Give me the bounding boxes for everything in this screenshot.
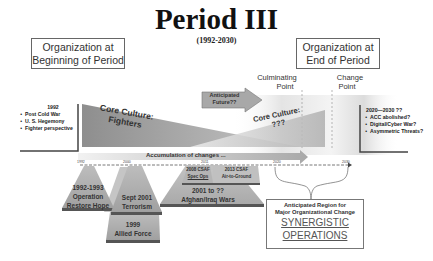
event-line: Terrorism (112, 202, 162, 211)
left-bullet: Fighter perspective (25, 125, 79, 132)
event-sept-2001: Sept 2001 Terrorism (112, 193, 162, 211)
event-line: Allied Force (107, 229, 159, 238)
left-context-year: 1992 (17, 104, 79, 111)
right-context: 2020—2030 ?? ACC abolished? Digital/Cybe… (362, 107, 432, 135)
event-afghan-iraq: 2001 to ?? Afghan/Iraq Wars (168, 186, 248, 204)
anticipated-region-line2: Major Organizational Change (267, 209, 363, 216)
tick-1992: 1992 (77, 160, 85, 164)
event-allied-force: 1999 Allied Force (107, 220, 159, 238)
right-bullet: Asymmetric Threats? (370, 128, 432, 135)
event-line: Restore Hope (63, 201, 113, 210)
anticipated-future-label: Anticipated Future?? (203, 92, 246, 106)
left-bullet: U. S. Hegemony (25, 118, 79, 125)
operations-label: OPERATIONS (267, 229, 363, 242)
event-line: Spec Ops (183, 173, 213, 180)
tick-2030: 2030 (342, 160, 350, 164)
right-bullet: Digital/Cyber War? (370, 121, 432, 128)
event-line: Air-to-Ground (214, 173, 259, 180)
event-line: 2013 CSAF (214, 166, 259, 173)
right-context-year: 2020—2030 ?? (362, 107, 432, 114)
event-restore-hope: 1992-1993 Operation Restore Hope (63, 183, 113, 210)
event-line: Sept 2001 (112, 193, 162, 202)
tick-2000: 2000 (123, 160, 131, 164)
event-line: 1999 (107, 220, 159, 229)
synergistic-label: SYNERGISTIC (267, 216, 363, 229)
tick-2011: 2011 (201, 160, 209, 164)
event-line: 1992-1993 (63, 183, 113, 192)
anticipated-region-line1: Anticipated Region for (267, 202, 363, 209)
event-2008-csaf: 2008 CSAF Spec Ops (183, 166, 213, 180)
left-context: 1992 Post Cold War U. S. Hegemony Fighte… (17, 104, 79, 132)
event-line: 2008 CSAF (183, 166, 213, 173)
event-line: Afghan/Iraq Wars (168, 195, 248, 204)
left-bullet: Post Cold War (25, 111, 79, 118)
event-line: Operation (63, 192, 113, 201)
anticipated-region-box: Anticipated Region for Major Organizatio… (266, 199, 364, 249)
accumulation-label: Accumulation of changes ... (146, 152, 306, 158)
right-bullet: ACC abolished? (370, 114, 432, 121)
tick-2020: 2020 (273, 160, 281, 164)
event-2013-csaf: 2013 CSAF Air-to-Ground (214, 166, 259, 180)
anticipated-line2: Future?? (203, 99, 246, 106)
anticipated-line1: Anticipated (203, 92, 246, 99)
event-line: 2001 to ?? (168, 186, 248, 195)
